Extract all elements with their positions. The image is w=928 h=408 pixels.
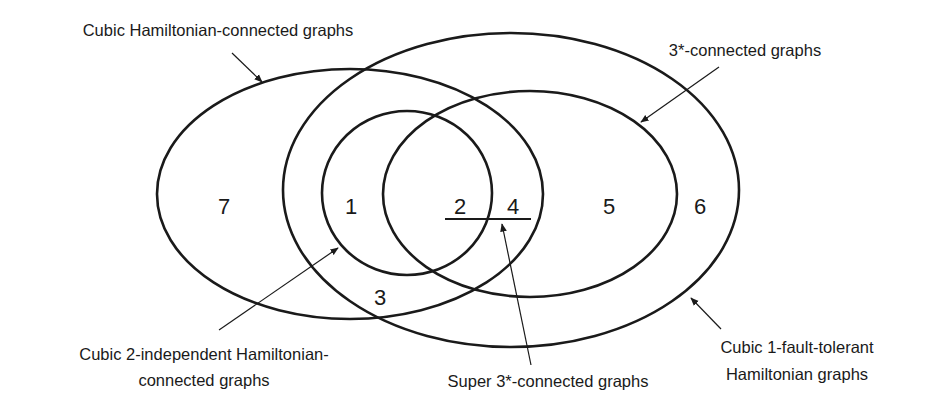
- arrow-hamiltonian-connected: [232, 53, 262, 82]
- arrow-1-fault-tolerant: [691, 298, 721, 329]
- label-cubic-hamiltonian-connected: Cubic Hamiltonian-connected graphs: [83, 21, 354, 39]
- region-5: 5: [603, 194, 615, 219]
- venn-diagram: 7 1 2 4 5 6 3 Cubic Hamiltonian-connecte…: [0, 0, 928, 408]
- label-super-3star-connected: Super 3*-connected graphs: [448, 372, 649, 390]
- region-1: 1: [345, 194, 357, 219]
- arrow-3star-connected: [641, 67, 719, 122]
- label-cubic-2-independent-line2: connected graphs: [138, 371, 269, 389]
- region-6: 6: [694, 194, 706, 219]
- ellipse-cubic-1-fault-tolerant-hamiltonian: [283, 33, 739, 347]
- region-4: 4: [507, 194, 519, 219]
- label-3star-connected: 3*-connected graphs: [669, 41, 821, 59]
- label-cubic-2-independent-line1: Cubic 2-independent Hamiltonian-: [79, 345, 328, 363]
- label-cubic-1-fault-tolerant-line2: Hamiltonian graphs: [726, 365, 868, 383]
- region-7: 7: [218, 194, 230, 219]
- region-3: 3: [374, 285, 386, 310]
- region-2: 2: [454, 194, 466, 219]
- ellipse-3star-connected: [383, 91, 677, 297]
- label-cubic-1-fault-tolerant-line1: Cubic 1-fault-tolerant: [720, 338, 874, 356]
